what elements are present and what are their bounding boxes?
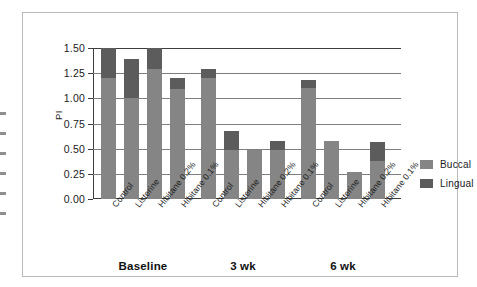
group-label: 3 wk <box>193 260 293 272</box>
page-edge-mark <box>0 212 6 215</box>
chart-legend: BuccalLingual <box>419 159 474 197</box>
group-label: 6 wk <box>293 260 393 272</box>
bar-baseline-listerine[interactable] <box>124 59 139 199</box>
bar-segment-buccal <box>101 78 116 199</box>
legend-item[interactable]: Buccal <box>419 159 474 170</box>
y-axis-tick-label: 0.50 <box>64 143 85 155</box>
page-edge-mark <box>0 192 6 195</box>
y-axis-title: PI <box>53 110 64 120</box>
page-edge-mark <box>0 132 6 135</box>
bar-baseline-hibitane-0-2-[interactable] <box>147 48 162 199</box>
page-edge-mark <box>0 112 6 115</box>
plot-area: 0.000.250.500.751.001.251.50 <box>93 48 401 199</box>
y-axis-tick <box>88 199 93 200</box>
legend-swatch <box>419 178 434 189</box>
page-edge-mark <box>0 172 6 175</box>
page-edge-mark <box>0 152 6 155</box>
bar-baseline-control[interactable] <box>101 48 116 199</box>
chart-page: PI 0.000.250.500.751.001.251.50 ControlL… <box>0 0 477 287</box>
y-axis-tick-label: 0.75 <box>64 118 85 130</box>
y-axis-tick-label: 0.25 <box>64 168 85 180</box>
y-axis-tick-label: 1.25 <box>64 67 85 79</box>
y-axis-tick-label: 0.00 <box>64 193 85 205</box>
group-label: Baseline <box>93 260 193 272</box>
figure-frame: PI 0.000.250.500.751.001.251.50 ControlL… <box>22 12 458 277</box>
legend-item[interactable]: Lingual <box>419 178 474 189</box>
legend-label: Buccal <box>440 159 471 170</box>
y-axis-tick-label: 1.50 <box>64 42 85 54</box>
legend-label: Lingual <box>440 178 474 189</box>
y-axis-tick-label: 1.00 <box>64 92 85 104</box>
legend-swatch <box>419 159 434 170</box>
bars-layer <box>93 48 401 199</box>
